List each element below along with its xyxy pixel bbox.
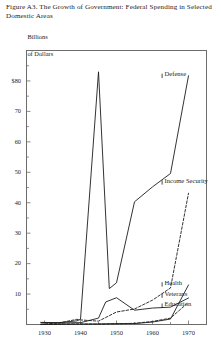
y-tick-label: 10	[0, 291, 21, 297]
x-tick-label: 1940	[66, 330, 96, 336]
series-lines-layer	[41, 72, 189, 325]
y-tick-label: 30	[0, 230, 21, 236]
y-tick-label: 20	[0, 260, 21, 266]
series-label-education: Education	[165, 301, 192, 308]
y-tick-label: 50	[0, 169, 21, 175]
x-tick-label: 1950	[102, 330, 132, 336]
series-label-veterans: Veterans	[165, 291, 188, 298]
y-tick-label: 60	[0, 139, 21, 145]
series-label-defense: Defense	[165, 71, 187, 78]
y-tick-label: 70	[0, 108, 21, 114]
figure-container: Figure A3. The Growth of Government: Fed…	[0, 0, 221, 342]
x-tick-label: 1930	[30, 330, 60, 336]
series-label-income-security: Income Security	[165, 178, 208, 185]
x-tick-label: 1970	[174, 330, 204, 336]
x-tick-label: 1960	[138, 330, 168, 336]
plot-canvas	[0, 0, 221, 342]
y-tick-label: $80	[0, 78, 21, 84]
series-label-health: Health	[165, 280, 183, 287]
y-tick-label: 40	[0, 200, 21, 206]
